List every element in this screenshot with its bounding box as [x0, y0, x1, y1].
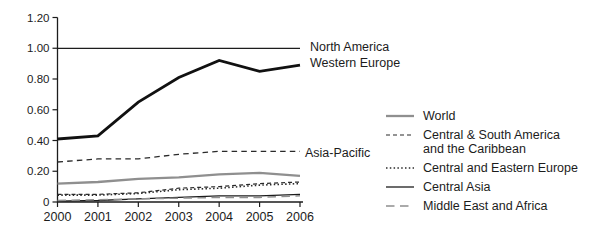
y-tick-label: 1.00 [27, 42, 49, 54]
legend-item-world: World [385, 109, 578, 123]
legend-item-central-and-eastern-europe: Central and Eastern Europe [385, 161, 578, 175]
legend-item-central-asia: Central Asia [385, 180, 578, 194]
y-tick-label: 0.20 [27, 165, 49, 177]
legend-swatch-world-line [385, 110, 415, 122]
series-line-world [58, 173, 301, 184]
legend-label-middle-east-and-africa: Middle East and Africa [423, 199, 547, 213]
x-tick-label: 2003 [165, 210, 193, 224]
legend-label-central-south-america-and-the-caribbean: Central & South America and the Caribbea… [423, 128, 560, 156]
legend-item-central-south-america-and-the-caribbean: Central & South America and the Caribbea… [385, 128, 578, 156]
line-label-asia-pacific: Asia-Pacific [305, 146, 370, 161]
x-tick-label: 2000 [44, 210, 72, 224]
legend-swatch-central-asia-line [385, 181, 415, 193]
y-tick-label: 0.40 [27, 135, 49, 147]
x-tick-label: 2002 [124, 210, 152, 224]
legend-label-world: World [423, 109, 455, 123]
legend-item-middle-east-and-africa: Middle East and Africa [385, 199, 578, 213]
y-tick-label: 0 [43, 196, 49, 208]
series-line-western-europe [58, 61, 301, 140]
y-tick-label: 0.60 [27, 104, 49, 116]
series-line-central-and-eastern-europe [58, 184, 301, 196]
line-chart-figure: 00.200.400.600.801.001.20200020012002200… [0, 0, 591, 237]
x-tick-label: 2005 [246, 210, 274, 224]
series-line-central-south-america-and-the-caribbean [58, 182, 301, 194]
x-tick-label: 2001 [84, 210, 112, 224]
y-tick-label: 1.20 [27, 12, 49, 24]
y-tick-label: 0.80 [27, 73, 49, 85]
legend-label-central-asia: Central Asia [423, 180, 490, 194]
x-tick-label: 2006 [286, 210, 314, 224]
chart-legend: WorldCentral & South America and the Car… [385, 109, 578, 213]
series-line-asia-pacific [58, 151, 301, 162]
series-line-middle-east-and-africa [58, 196, 301, 201]
legend-swatch-central-south-america-and-the-caribbean-line [385, 129, 415, 141]
x-tick-label: 2004 [205, 210, 233, 224]
legend-label-central-and-eastern-europe: Central and Eastern Europe [423, 161, 578, 175]
line-label-north-america: North America [310, 40, 389, 55]
line-label-western-europe: Western Europe [310, 56, 400, 71]
legend-swatch-middle-east-and-africa-line [385, 200, 415, 212]
legend-swatch-central-and-eastern-europe-line [385, 162, 415, 174]
